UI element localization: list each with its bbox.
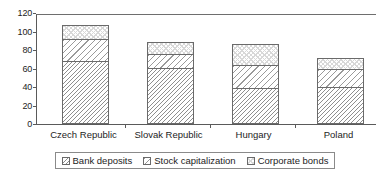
x-label-hungary: Hungary — [210, 128, 297, 142]
bar-hungary[interactable] — [232, 44, 279, 124]
segment-bank-deposits[interactable] — [62, 61, 109, 124]
bar-poland[interactable] — [317, 58, 364, 124]
x-axis: Czech Republic Slovak Republic Hungary P… — [36, 128, 376, 144]
legend-swatch-icon — [62, 157, 70, 165]
y-tick-0: 0 — [27, 119, 36, 130]
bar-slovak-republic[interactable] — [147, 42, 194, 124]
legend-swatch-icon — [143, 157, 151, 165]
legend-swatch-icon — [247, 157, 255, 165]
segment-stock-capitalization[interactable] — [62, 39, 109, 61]
legend-item-stock-capitalization[interactable]: Stock capitalization — [143, 155, 235, 166]
legend-item-bank-deposits[interactable]: Bank deposits — [62, 155, 133, 166]
legend-item-corporate-bonds[interactable]: Corporate bonds — [247, 155, 329, 166]
x-label-czech-republic: Czech Republic — [40, 128, 127, 142]
bar-czech-republic[interactable] — [62, 25, 109, 124]
bars-container — [37, 15, 376, 124]
y-tick-100: 100 — [18, 27, 36, 38]
legend-label: Corporate bonds — [258, 155, 329, 166]
segment-corporate-bonds[interactable] — [147, 42, 194, 54]
y-tick-20: 20 — [22, 101, 36, 112]
x-label-poland: Poland — [295, 128, 382, 142]
y-tick-80: 80 — [22, 45, 36, 56]
segment-bank-deposits[interactable] — [232, 88, 279, 124]
segment-stock-capitalization[interactable] — [232, 65, 279, 88]
segment-bank-deposits[interactable] — [317, 87, 364, 124]
segment-stock-capitalization[interactable] — [317, 69, 364, 87]
segment-corporate-bonds[interactable] — [62, 25, 109, 39]
segment-stock-capitalization[interactable] — [147, 54, 194, 69]
plot-area — [36, 14, 376, 125]
chart-legend: Bank deposits Stock capitalization Corpo… — [55, 152, 335, 169]
legend-label: Bank deposits — [73, 155, 133, 166]
segment-corporate-bonds[interactable] — [317, 58, 364, 69]
stacked-bar-chart: 120 100 80 60 40 20 0 — [0, 0, 389, 177]
segment-corporate-bonds[interactable] — [232, 44, 279, 64]
y-tick-40: 40 — [22, 82, 36, 93]
segment-bank-deposits[interactable] — [147, 68, 194, 124]
y-axis: 120 100 80 60 40 20 0 — [0, 0, 36, 125]
legend-label: Stock capitalization — [154, 155, 235, 166]
x-label-slovak-republic: Slovak Republic — [125, 128, 212, 142]
y-tick-60: 60 — [22, 64, 36, 75]
y-tick-120: 120 — [18, 8, 36, 19]
